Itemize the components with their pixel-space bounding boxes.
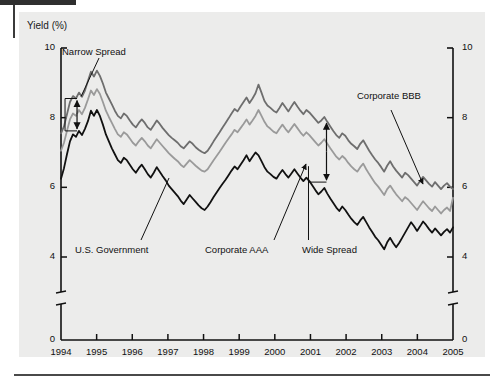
x-tick-label-1999: 1999: [222, 346, 256, 357]
x-tick-label-2004: 2004: [400, 346, 434, 357]
chart-plot-area: [19, 12, 485, 357]
y-tick-label-right-4: 4: [462, 250, 478, 261]
y-tick-label-left-4: 4: [39, 250, 55, 261]
annotation-narrow-spread: Narrow Spread: [62, 46, 126, 57]
x-tick-label-1994: 1994: [44, 346, 78, 357]
y-tick-label-left-6: 6: [39, 180, 55, 191]
x-tick-label-2005: 2005: [436, 346, 470, 357]
annotation-wide-spread: Wide Spread: [302, 244, 357, 255]
figure-root: Yield (%) 446688101000199419951996199719…: [0, 0, 504, 382]
annotation-us-government: U.S. Government: [75, 244, 148, 255]
annotation-corporate-bbb: Corporate BBB: [357, 90, 421, 101]
chart-panel: Yield (%) 446688101000199419951996199719…: [19, 12, 485, 357]
y-tick-label-left-0: 0: [39, 333, 55, 344]
y-tick-label-left-8: 8: [39, 111, 55, 122]
x-tick-label-1995: 1995: [80, 346, 114, 357]
y-tick-label-right-6: 6: [462, 180, 478, 191]
series-line-corporate-aaa: [61, 89, 453, 213]
x-tick-label-2003: 2003: [365, 346, 399, 357]
y-tick-label-right-8: 8: [462, 111, 478, 122]
x-tick-label-1997: 1997: [151, 346, 185, 357]
annotation-corporate-aaa: Corporate AAA: [205, 244, 268, 255]
y-tick-label-right-0: 0: [462, 333, 478, 344]
series-line-corporate-bbb: [61, 71, 453, 189]
x-tick-label-2000: 2000: [258, 346, 292, 357]
bottom-horizontal-rule: [14, 374, 490, 376]
x-tick-label-1996: 1996: [115, 346, 149, 357]
x-tick-label-1998: 1998: [187, 346, 221, 357]
series-line-u-s-government: [61, 110, 453, 249]
top-decoration-bar: [0, 0, 76, 5]
x-tick-label-2001: 2001: [293, 346, 327, 357]
left-vertical-rule: [13, 5, 15, 38]
y-tick-label-right-10: 10: [462, 41, 478, 52]
x-tick-label-2002: 2002: [329, 346, 363, 357]
y-tick-label-left-10: 10: [39, 41, 55, 52]
